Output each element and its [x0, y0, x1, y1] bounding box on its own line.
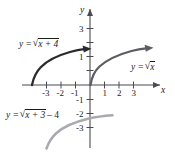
radical-1: √x + 4 [33, 38, 59, 50]
y-tick-label-neg3: -3 [76, 124, 84, 133]
radical-sign-icon: √ [145, 61, 150, 71]
x-tick-label-3: 3 [132, 89, 137, 98]
curve-label-shift-left-4: y =√x + 4 [19, 38, 59, 50]
graph-canvas [0, 0, 175, 153]
radical-sign-icon: √ [33, 38, 38, 48]
curve-label-shift-left-3-down-4: y =√x + 3– 4 [6, 109, 59, 121]
x-tick-label-neg2: -2 [57, 89, 65, 98]
curve-label-tail-3: – 4 [47, 110, 59, 120]
x-tick-label-1: 1 [103, 89, 108, 98]
curve-label-lhs-2: y = [131, 62, 144, 72]
y-axis-label: y [80, 6, 84, 16]
radical-sign-icon: √ [20, 109, 25, 119]
curve-label-base: y =√x [131, 61, 155, 73]
radicand-2: x [150, 61, 155, 73]
x-axis-label: x [161, 86, 165, 96]
radicand-3: x + 3 [25, 109, 46, 121]
radical-2: √x [145, 61, 155, 73]
radical-3: √x + 3 [20, 109, 46, 121]
x-tick-label-neg3: -3 [42, 89, 50, 98]
y-tick-label-1: 1 [79, 53, 84, 62]
graph-figure: -3 -2 -1 1 2 3 3 1 -1 -2 -3 y x y =√x + … [0, 0, 175, 153]
curve-label-lhs-1: y = [19, 39, 32, 49]
y-tick-label-neg1: -1 [76, 96, 84, 105]
curve-label-lhs-3: y = [6, 110, 19, 120]
x-tick-label-2: 2 [117, 89, 122, 98]
y-tick-label-neg2: -2 [76, 110, 84, 119]
radicand-1: x + 4 [38, 38, 59, 50]
y-tick-label-3: 3 [79, 25, 84, 34]
